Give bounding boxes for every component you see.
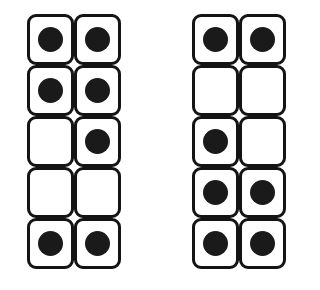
grid-cell[interactable]: [74, 167, 121, 218]
grid-cell[interactable]: [239, 218, 286, 269]
empty-cell-placeholder: [85, 180, 110, 205]
filled-dot-icon: [203, 27, 228, 52]
grid-cell[interactable]: [27, 218, 74, 269]
filled-dot-icon: [203, 231, 228, 256]
filled-dot-icon: [85, 78, 110, 103]
grid-cell[interactable]: [239, 116, 286, 167]
grid-cell[interactable]: [27, 167, 74, 218]
empty-cell-placeholder: [38, 129, 63, 154]
filled-dot-icon: [85, 231, 110, 256]
grid-cell[interactable]: [192, 65, 239, 116]
filled-dot-icon: [38, 231, 63, 256]
filled-dot-icon: [250, 27, 275, 52]
empty-cell-placeholder: [250, 129, 275, 154]
filled-dot-icon: [203, 129, 228, 154]
filled-dot-icon: [85, 27, 110, 52]
dot-grid-canvas: [0, 0, 320, 290]
filled-dot-icon: [250, 180, 275, 205]
grid-cell[interactable]: [74, 116, 121, 167]
left-grid: [27, 14, 121, 269]
grid-cell[interactable]: [192, 218, 239, 269]
filled-dot-icon: [203, 180, 228, 205]
grid-cell[interactable]: [239, 167, 286, 218]
filled-dot-icon: [85, 129, 110, 154]
grid-cell[interactable]: [192, 116, 239, 167]
grid-cell[interactable]: [27, 14, 74, 65]
right-grid: [192, 14, 286, 269]
filled-dot-icon: [38, 27, 63, 52]
grid-cell[interactable]: [192, 14, 239, 65]
grid-cell[interactable]: [74, 14, 121, 65]
filled-dot-icon: [250, 231, 275, 256]
grid-cell[interactable]: [74, 218, 121, 269]
grid-cell[interactable]: [192, 167, 239, 218]
grid-cell[interactable]: [27, 116, 74, 167]
grid-cell[interactable]: [27, 65, 74, 116]
grid-cell[interactable]: [239, 14, 286, 65]
empty-cell-placeholder: [203, 78, 228, 103]
grid-cell[interactable]: [239, 65, 286, 116]
filled-dot-icon: [38, 78, 63, 103]
empty-cell-placeholder: [250, 78, 275, 103]
grid-cell[interactable]: [74, 65, 121, 116]
empty-cell-placeholder: [38, 180, 63, 205]
